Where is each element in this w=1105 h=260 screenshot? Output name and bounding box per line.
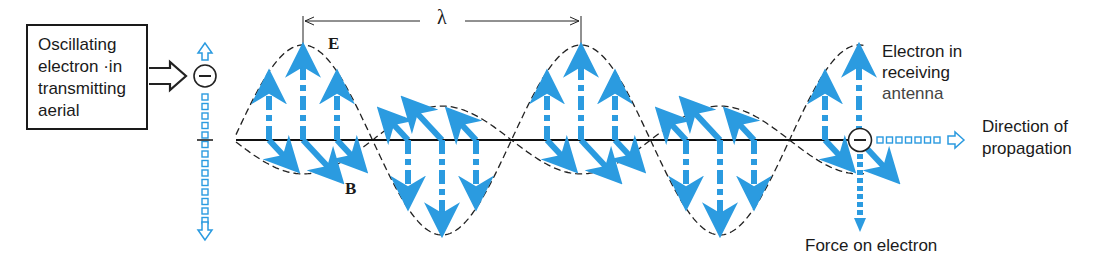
source-label-box: Oscillating electron ·in transmitting ae… xyxy=(26,24,148,130)
direction-line-1: Direction of xyxy=(982,117,1068,136)
down-arrow-icon xyxy=(198,222,212,240)
source-line-3: transmitting xyxy=(38,78,126,100)
direction-line-2: propagation xyxy=(982,139,1072,158)
force-arrow-icon xyxy=(854,218,866,232)
receiver-group xyxy=(849,129,965,233)
propagation-arrow-icon xyxy=(948,132,964,148)
pointer-arrow-icon xyxy=(149,62,186,90)
up-arrow-icon xyxy=(198,43,212,60)
source-line-1: Oscillating xyxy=(38,34,116,56)
receiver-line-1: Electron in xyxy=(882,42,962,61)
wavelength-label: λ xyxy=(437,8,447,27)
transmitter-oscillation xyxy=(194,43,216,240)
source-line-2: electron ·in xyxy=(38,56,122,78)
receiver-line-2: receiving xyxy=(882,63,950,82)
force-label: Force on electron xyxy=(805,236,937,255)
wave-diagram xyxy=(0,0,1105,260)
source-line-4: aerial xyxy=(38,100,80,122)
receiver-line-3: antenna xyxy=(882,84,943,103)
e-field-label: E xyxy=(328,34,339,53)
b-field-label: B xyxy=(345,179,356,198)
